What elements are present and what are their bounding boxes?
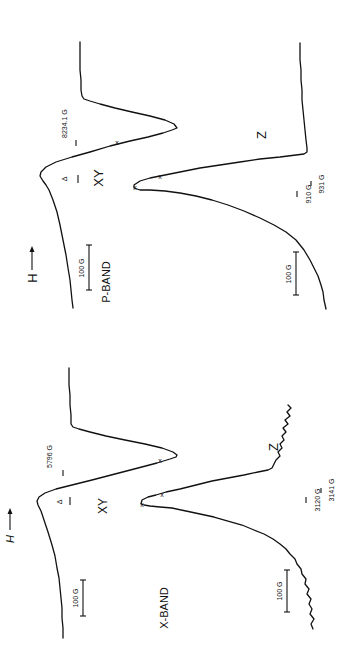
xy-label: XY: [96, 498, 110, 514]
scale-bar-label: 100 G: [72, 588, 79, 607]
crossing-mark: x: [133, 184, 137, 191]
band-label: X-BAND: [158, 587, 170, 629]
crossing-mark: x: [140, 501, 144, 508]
arrow-head-icon: [8, 508, 13, 514]
scale-bar-label: 100 G: [78, 258, 85, 277]
field-marker-label: 8234.1 G: [61, 109, 68, 138]
p-band-panel: H 100 G x Δ 8234.1 G XY P-BAND 100 G: [25, 42, 326, 309]
scale-bar-label: 100 G: [276, 581, 283, 600]
scale-bar-xy: 100 G: [78, 245, 92, 290]
scale-bar-z: 100 G: [276, 570, 290, 612]
epr-spectra-figure: H 100 G x Δ 8234.1 G XY P-BAND 100 G: [0, 0, 361, 669]
x-band-panel: H 100 G x Δ 5796 G XY X-BAND 100 G: [4, 368, 335, 638]
field-label: H: [4, 535, 16, 543]
band-label: P-BAND: [100, 261, 112, 303]
scale-bar-z: 100 G: [285, 252, 299, 295]
scale-bar-xy: 100 G: [72, 580, 86, 616]
field-direction-arrow: H: [25, 246, 40, 283]
delta-label: Δ: [56, 499, 63, 504]
xy-label: XY: [91, 169, 106, 187]
crossing-mark: x: [115, 139, 119, 146]
z-label: Z: [254, 131, 269, 139]
field-marker-label: 910 G: [305, 184, 312, 203]
field-marker-label: 3141 G: [328, 479, 335, 502]
field-label: H: [25, 273, 40, 282]
field-marker-label: 931 G: [318, 174, 325, 193]
arrow-head-icon: [30, 246, 35, 252]
delta-label: Δ: [61, 176, 68, 181]
crossing-mark: x: [158, 457, 162, 464]
crossing-mark: x: [160, 491, 164, 498]
z-label: Z: [266, 443, 281, 451]
field-marker-label: 3120 G: [314, 489, 321, 512]
p-band-z-curve: [134, 43, 326, 309]
scale-bar-label: 100 G: [285, 264, 292, 283]
crossing-mark: x: [158, 173, 162, 180]
field-marker-label: 5796 G: [46, 445, 53, 468]
field-direction-arrow: H: [4, 508, 16, 543]
